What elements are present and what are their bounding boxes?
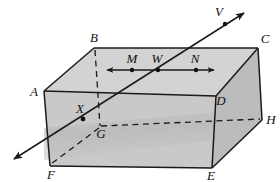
label-C: C: [261, 31, 270, 46]
label-W: W: [152, 51, 164, 66]
dot-M: [130, 68, 134, 72]
label-D: D: [215, 93, 226, 108]
dot-N: [194, 68, 198, 72]
label-G: G: [96, 126, 106, 141]
label-N: N: [190, 51, 201, 66]
label-F: F: [46, 167, 56, 182]
label-V: V: [215, 4, 225, 19]
label-H: H: [265, 112, 276, 127]
label-X: X: [75, 101, 85, 116]
label-M: M: [126, 51, 139, 66]
box-diagram-svg: A B C D E F G H M W N X V: [0, 0, 280, 182]
label-A: A: [29, 84, 38, 99]
dot-V: [223, 22, 227, 26]
dot-W: [156, 68, 160, 72]
dot-X: [81, 117, 86, 122]
label-B: B: [90, 30, 98, 45]
geometry-figure: A B C D E F G H M W N X V: [0, 0, 280, 182]
label-E: E: [206, 168, 215, 182]
